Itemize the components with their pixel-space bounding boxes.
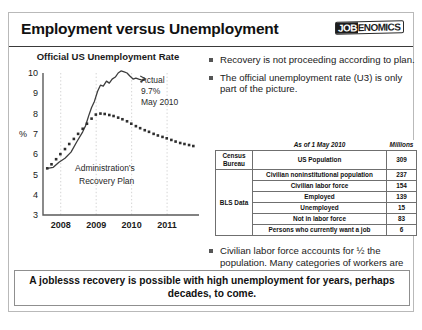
chart-series-plan-point	[183, 143, 186, 146]
chart-y-tick-label: 9	[33, 88, 38, 98]
table-cell-label: Persons who currently want a job	[253, 225, 387, 236]
chart-series-plan-point	[86, 122, 89, 125]
chart-series-plan-point	[108, 114, 111, 117]
chart-series-plan-point	[55, 158, 58, 161]
table-meta-row: As of 1 May 2010 Millions	[216, 140, 417, 151]
logo-light-text: ENOMICS	[358, 21, 401, 33]
bullet-text: Recovery is not proceeding according to …	[220, 54, 415, 65]
chart-series-plan-point	[139, 127, 142, 130]
chart-series-plan-point	[192, 145, 195, 148]
chart-series-plan-point	[81, 127, 84, 130]
table-cell-value: 6	[387, 225, 417, 236]
unemployment-chart-panel: Official US Unemployment Rate 345678910%…	[13, 51, 203, 263]
table-cell-value: 237	[387, 170, 417, 181]
table-cell-label: Employed	[253, 192, 387, 203]
table-cell-label: Civilian labor force	[253, 181, 387, 192]
logo-dark-text: JOB	[336, 22, 358, 33]
jobenomics-logo: JOBENOMICS	[335, 20, 404, 34]
slide-header: Employment versus Unemployment JOBENOMIC…	[9, 13, 413, 47]
conclusion-banner: A joblesss recovery is possible with hig…	[14, 270, 410, 306]
chart-y-tick-label: 6	[33, 149, 38, 159]
chart-series-plan-point	[161, 136, 164, 139]
chart-annotation-actual: Actual	[141, 75, 165, 85]
table-source-census: Census Bureau	[216, 151, 253, 170]
table-meta-right: Millions	[387, 140, 417, 151]
chart-series-plan-point	[165, 137, 168, 140]
chart-series-plan-point	[170, 139, 173, 142]
table-cell-value: 139	[387, 192, 417, 203]
table-cell-value: 83	[387, 214, 417, 225]
chart-series-plan-point	[90, 117, 93, 120]
chart-y-tick-label: 3	[33, 210, 38, 220]
chart-series-plan-point	[174, 140, 177, 143]
table: As of 1 May 2010 Millions Census Bureau …	[215, 140, 417, 236]
chart-annotation-actual: May 2010	[141, 97, 179, 107]
chart-series-plan-point	[73, 138, 76, 141]
chart-y-tick-label: 7	[33, 129, 38, 139]
chart-x-tick-label: 2011	[157, 220, 177, 230]
chart-render-group: 345678910%2008200920102011Actual9.7%May …	[19, 68, 199, 230]
chart-plot-area: 345678910%2008200920102011Actual9.7%May …	[13, 67, 203, 247]
table-cell-label: Unemployed	[253, 203, 387, 214]
chart-series-plan-point	[121, 118, 124, 121]
table-cell-label: Not in labor force	[253, 214, 387, 225]
chart-series-plan-point	[188, 144, 191, 147]
chart-series-plan-point	[152, 133, 155, 136]
table-cell-label: US Population	[253, 151, 387, 170]
chart-series-plan-point	[135, 125, 138, 128]
chart-y-tick-label: 10	[28, 68, 38, 78]
chart-series-plan-point	[77, 133, 80, 136]
chart-series-plan-point	[112, 115, 115, 118]
chart-series-plan-point	[50, 163, 53, 166]
bullet-list-top: Recovery is not proceeding according to …	[209, 54, 417, 101]
table-cell-value: 154	[387, 181, 417, 192]
chart-series-plan-point	[179, 142, 182, 145]
chart-annotation-plan: Administration’s	[75, 163, 135, 173]
chart-title: Official US Unemployment Rate	[13, 51, 203, 62]
chart-y-axis-label: %	[19, 129, 27, 139]
chart-series-plan-point	[68, 143, 71, 146]
table-cell-value: 309	[387, 151, 417, 170]
bullet-square-icon	[209, 249, 213, 253]
table-meta-left: As of 1 May 2010	[253, 140, 387, 151]
chart-y-tick-label: 4	[33, 190, 38, 200]
slide-canvas: Employment versus Unemployment JOBENOMIC…	[8, 12, 414, 312]
chart-svg: 345678910%2008200920102011Actual9.7%May …	[13, 67, 203, 247]
chart-series-plan-point	[99, 112, 102, 115]
chart-series-actual	[47, 71, 145, 168]
chart-series-plan-point	[64, 148, 67, 151]
chart-series-plan-point	[103, 113, 106, 116]
table-meta-blank	[216, 140, 253, 151]
chart-series-plan-point	[157, 134, 160, 137]
chart-x-tick-label: 2010	[122, 220, 142, 230]
chart-series-plan-point	[46, 167, 49, 170]
chart-axes	[43, 73, 199, 215]
bullet-text: The official unemployment rate (U3) is o…	[220, 72, 402, 95]
chart-series-plan-point	[143, 129, 146, 132]
bullet-square-icon	[209, 76, 213, 80]
table-row: BLS Data Civilian noninstitutional popul…	[216, 170, 417, 181]
chart-series-plan-point	[148, 131, 151, 134]
chart-series-plan-point	[130, 122, 133, 125]
chart-series-plan-point	[95, 113, 98, 116]
chart-series-plan-point	[126, 120, 129, 123]
bullet-square-icon	[209, 58, 213, 62]
chart-annotation-plan: Recovery Plan	[79, 176, 135, 186]
chart-y-tick-label: 5	[33, 170, 38, 180]
chart-x-tick-label: 2008	[51, 220, 71, 230]
chart-series-plan-point	[59, 153, 62, 156]
page-title: Employment versus Unemployment	[21, 20, 279, 38]
table-source-bls: BLS Data	[216, 170, 253, 236]
table-cell-label: Civilian noninstitutional population	[253, 170, 387, 181]
chart-x-tick-label: 2009	[86, 220, 106, 230]
chart-annotation-actual: 9.7%	[141, 86, 161, 96]
list-item: Recovery is not proceeding according to …	[209, 54, 417, 66]
chart-y-tick-label: 8	[33, 109, 38, 119]
table-row: Census Bureau US Population 309	[216, 151, 417, 170]
chart-series-plan-point	[117, 116, 120, 119]
table-cell-value: 15	[387, 203, 417, 214]
list-item: The official unemployment rate (U3) is o…	[209, 72, 417, 95]
population-data-table: As of 1 May 2010 Millions Census Bureau …	[215, 140, 417, 236]
